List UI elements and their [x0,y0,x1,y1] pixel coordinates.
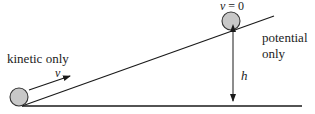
ball-bottom [10,88,28,106]
kinetic-only-label: kinetic only [7,51,69,67]
height-label: h [241,68,248,84]
potential-line-2: only [262,46,308,62]
velocity-label: v [55,66,60,81]
velocity-arrow-icon [29,76,70,90]
potential-line-1: potential [262,30,308,46]
potential-only-label: potential only [262,30,308,62]
velocity-zero-label: v = 0 [220,0,244,14]
energy-incline-diagram: kinetic only v v = 0 potential only h [0,0,315,114]
velocity-zero-value: = 0 [225,0,244,13]
ball-top [222,12,240,30]
